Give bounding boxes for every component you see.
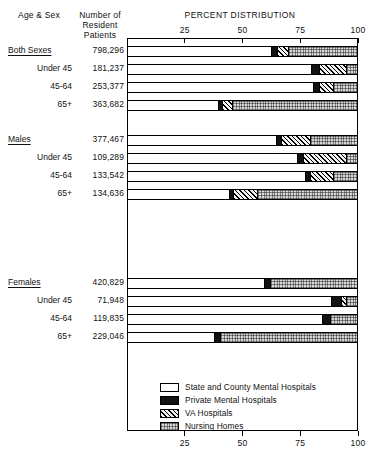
resident-patients-value: 363,682 [72,99,124,109]
group-label: Females [8,277,78,287]
legend-swatch-nursing [160,422,179,431]
bar-segment-state [128,333,214,342]
bar-segment-va [281,136,310,145]
stacked-bar [127,171,358,182]
legend-item: VA Hospitals [160,407,350,419]
bar-segment-nursing [346,297,357,306]
stacked-bar [127,332,358,343]
axis-tick-top [300,38,301,43]
stacked-bar [127,82,358,93]
bar-segment-va [222,101,232,110]
bar-segment-state [128,172,305,181]
bar-segment-va [319,83,333,92]
stacked-bar [127,296,358,307]
row-label: 65+ [2,99,72,109]
legend-swatch-state [160,383,179,392]
bar-segment-state [128,154,297,163]
resident-patients-value: 798,296 [72,45,124,55]
row-label: 45-64 [2,81,72,91]
row-label: 45-64 [2,313,72,323]
legend-swatch-va [160,409,179,418]
bar-segment-state [128,297,331,306]
bar-segment-private [311,65,319,74]
axis-tick-label-top: 25 [170,25,200,35]
resident-patients-value: 71,948 [72,295,124,305]
bar-segment-state [128,136,276,145]
resident-patients-value: 377,467 [72,134,124,144]
stacked-bar [127,135,358,146]
bar-segment-state [128,47,271,56]
axis-tick-label-top: 75 [285,25,315,35]
group-label: Both Sexes [8,45,78,55]
bar-segment-va [310,172,334,181]
axis-tick-label-bottom: 75 [285,438,315,448]
legend-label: Private Mental Hospitals [185,395,277,405]
row-label: 45-64 [2,170,72,180]
bar-segment-nursing [333,83,357,92]
resident-patients-value: 109,289 [72,152,124,162]
bar-segment-state [128,101,218,110]
bar-segment-state [128,190,229,199]
bar-segment-va [277,47,288,56]
bar-segment-private [322,315,330,324]
row-label: Under 45 [2,63,72,73]
legend-label: Nursing Homes [185,421,243,431]
resident-patients-value: 134,636 [72,188,124,198]
bar-segment-nursing [270,279,357,288]
axis-tick-label-bottom: 50 [228,438,258,448]
stacked-bar [127,46,358,57]
column-header-age-sex: Age & Sex [6,10,72,20]
legend-item: Private Mental Hospitals [160,394,350,406]
row-label: 65+ [2,331,72,341]
legend-label: State and County Mental Hospitals [185,382,316,392]
plot-area [127,38,358,431]
bar-segment-state [128,83,313,92]
stacked-bar [127,314,358,325]
bar-segment-va [233,190,257,199]
bar-segment-state [128,279,264,288]
bar-segment-state [128,315,322,324]
resident-patients-value: 119,835 [72,313,124,323]
axis-tick-label-top: 50 [228,25,258,35]
bar-segment-nursing [310,136,357,145]
legend-swatch-private [160,396,179,405]
stacked-bar [127,189,358,200]
stacked-bar [127,153,358,164]
legend-item: Nursing Homes [160,420,350,432]
chart-root: Age & Sex Number of Resident Patients PE… [0,0,378,472]
resident-patients-value: 229,046 [72,331,124,341]
group-label: Males [8,134,78,144]
bar-segment-nursing [346,65,357,74]
stacked-bar [127,100,358,111]
bar-segment-va [319,65,346,74]
bar-segment-state [128,65,311,74]
stacked-bar [127,278,358,289]
row-label: Under 45 [2,152,72,162]
bar-segment-nursing [232,101,357,110]
legend: State and County Mental HospitalsPrivate… [160,381,350,433]
bar-segment-nursing [333,172,357,181]
bar-segment-nursing [330,315,357,324]
bar-segment-va [303,154,346,163]
axis-tick-label-bottom: 100 [343,438,373,448]
axis-tick-top [358,38,359,43]
stacked-bar [127,64,358,75]
axis-tick-top [242,38,243,43]
axis-tick-label-bottom: 25 [170,438,200,448]
column-header-number: Number of Resident Patients [74,10,126,40]
resident-patients-value: 181,237 [72,63,124,73]
chart-title-percent-distribution: PERCENT DISTRIBUTION [150,10,330,20]
row-label: Under 45 [2,295,72,305]
bar-segment-nursing [288,47,357,56]
bar-segment-private [331,297,341,306]
bar-segment-nursing [220,333,357,342]
resident-patients-value: 133,542 [72,170,124,180]
bar-segment-nursing [346,154,357,163]
resident-patients-value: 253,377 [72,81,124,91]
legend-item: State and County Mental Hospitals [160,381,350,393]
axis-tick-label-top: 100 [343,25,373,35]
resident-patients-value: 420,829 [72,277,124,287]
bar-segment-nursing [257,190,357,199]
axis-tick-bottom [358,431,359,436]
axis-tick-top [184,38,185,43]
